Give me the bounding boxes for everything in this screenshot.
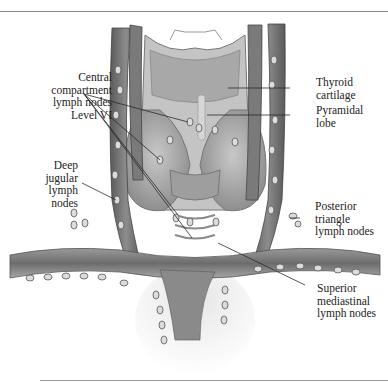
label-superior-mediastinal-lymph-nodes: Superior mediastinal lymph nodes — [317, 282, 376, 320]
label-thyroid-cartilage: Thyroid cartilage — [316, 76, 356, 101]
label-deep-jugular-lymph-nodes: Deep jugular lymph nodes — [20, 159, 78, 209]
bottom-rule — [40, 380, 388, 381]
label-posterior-triangle-lymph-nodes: Posterior triangle lymph nodes — [315, 200, 374, 238]
label-pyramidal-lobe: Pyramidal lobe — [316, 104, 363, 129]
label-central-compartment-lymph-nodes: Central compartment lymph nodes Level VI — [20, 71, 112, 121]
